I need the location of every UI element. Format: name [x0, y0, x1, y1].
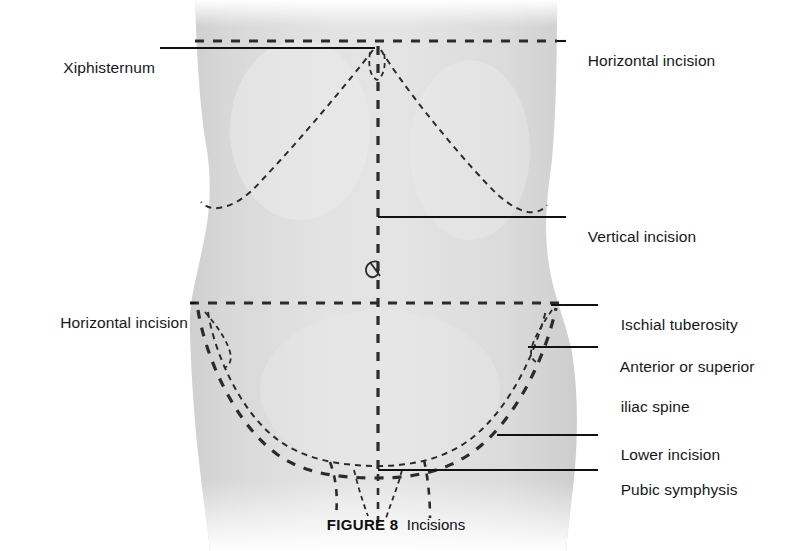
label-horizontal-incision-left-text: Horizontal incision	[60, 314, 188, 331]
label-horizontal-incision-top-text: Horizontal incision	[588, 52, 716, 69]
label-xiphisternum-text: Xiphisternum	[63, 59, 155, 76]
label-anterior-superior-iliac-spine: Anterior or superior iliac spine	[603, 337, 754, 437]
label-iliac-spine-line1: Anterior or superior	[620, 358, 755, 375]
torso-silhouette	[180, 0, 590, 551]
figure-caption-text: Incisions	[407, 516, 465, 533]
label-xiphisternum: Xiphisternum	[35, 38, 155, 98]
label-horizontal-incision-top: Horizontal incision	[570, 31, 715, 91]
label-pubic-symphysis: Pubic symphysis	[603, 460, 738, 520]
figure-container: Xiphisternum Horizontal incision Vertica…	[0, 0, 792, 551]
label-vertical-incision: Vertical incision	[570, 207, 696, 267]
label-iliac-spine-line2: iliac spine	[621, 398, 690, 415]
label-horizontal-incision-left: Horizontal incision	[33, 293, 188, 353]
label-vertical-incision-text: Vertical incision	[588, 228, 697, 245]
figure-caption-spacer	[398, 516, 406, 533]
label-ischial-tuberosity-text: Ischial tuberosity	[621, 316, 738, 333]
figure-caption: FIGURE 8 Incisions	[0, 516, 792, 533]
label-pubic-symphysis-text: Pubic symphysis	[621, 481, 738, 498]
figure-caption-label: FIGURE 8	[327, 516, 399, 533]
